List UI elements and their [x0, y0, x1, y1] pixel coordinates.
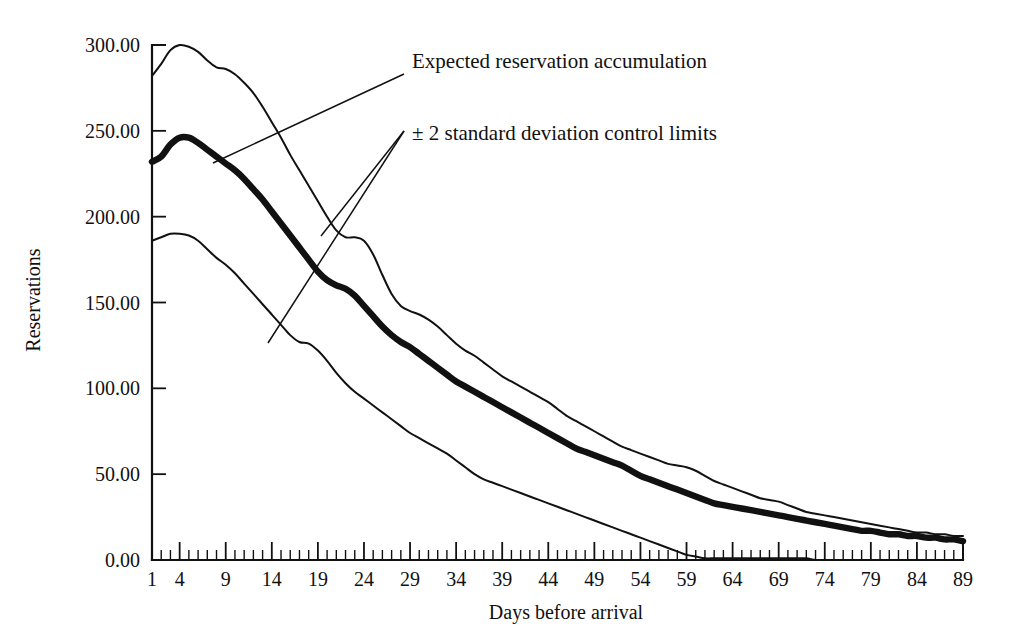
x-tick-label: 74	[815, 568, 835, 590]
x-tick-label: 89	[953, 568, 973, 590]
reservations-control-chart: Expected reservation accumulation± 2 sta…	[0, 0, 1023, 642]
x-tick-label: 59	[677, 568, 697, 590]
x-tick-label: 9	[221, 568, 231, 590]
y-tick-label: 100.00	[85, 377, 140, 399]
x-tick-label: 34	[446, 568, 466, 590]
annotation-label-1: ± 2 standard deviation control limits	[412, 121, 717, 145]
x-tick-label: 24	[354, 568, 374, 590]
x-tick-label: 44	[538, 568, 558, 590]
y-tick-label: 250.00	[85, 120, 140, 142]
y-tick-label: 0.00	[105, 549, 140, 571]
x-tick-label: 29	[400, 568, 420, 590]
chart-figure: Expected reservation accumulation± 2 sta…	[0, 0, 1023, 642]
x-tick-label: 84	[907, 568, 927, 590]
y-tick-label: 300.00	[85, 34, 140, 56]
y-tick-label: 50.00	[95, 463, 140, 485]
x-tick-label: 49	[584, 568, 604, 590]
x-tick-label: 79	[861, 568, 881, 590]
annotation-leader-line	[321, 131, 404, 236]
series-line-1	[152, 137, 963, 541]
x-axis-title: Days before arrival	[489, 601, 644, 624]
series-line-2	[152, 234, 963, 561]
x-tick-label: 64	[723, 568, 743, 590]
x-tick-label: 69	[769, 568, 789, 590]
annotation-leader-line	[213, 74, 404, 163]
series-line-0	[152, 45, 963, 536]
annotations-layer: Expected reservation accumulation± 2 sta…	[213, 49, 717, 343]
x-tick-label: 4	[175, 568, 185, 590]
y-axis-title: Reservations	[22, 248, 44, 352]
x-tick-label: 14	[262, 568, 282, 590]
x-tick-label: 54	[630, 568, 650, 590]
x-tick-label: 39	[492, 568, 512, 590]
y-tick-label: 150.00	[85, 292, 140, 314]
x-tick-label: 1	[147, 568, 157, 590]
x-tick-label: 19	[308, 568, 328, 590]
y-tick-label: 200.00	[85, 206, 140, 228]
annotation-label-0: Expected reservation accumulation	[412, 49, 708, 73]
